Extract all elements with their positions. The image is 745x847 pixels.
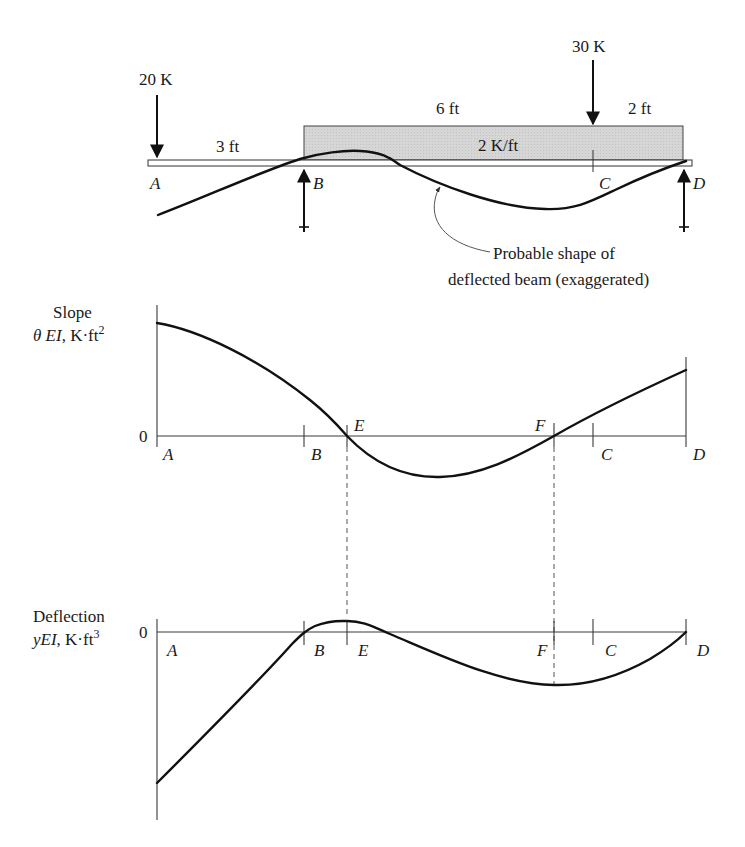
point-label-C: C	[599, 174, 611, 193]
deflection-label-A: A	[166, 641, 178, 660]
point-load-label-C: 30 K	[572, 37, 606, 56]
slope-label-E: E	[353, 416, 365, 435]
slope-ylabel-units: θ EI, K·ft2	[33, 323, 104, 345]
point-label-A: A	[149, 174, 161, 193]
deflection-ylabel-title: Deflection	[33, 607, 105, 626]
annotation-text-line2: deflected beam (exaggerated)	[448, 270, 649, 289]
deflection-label-F: F	[536, 641, 548, 660]
deflection-label-D: D	[696, 641, 710, 660]
slope-label-A: A	[162, 445, 174, 464]
beam-diagram-figure: 20 K 30 K 3 ft 6 ft 2 ft 2 K/ft A B C D …	[0, 0, 745, 847]
slope-ylabel-title: Slope	[53, 303, 92, 322]
deflection-label-E: E	[357, 641, 369, 660]
distributed-load-label: 2 K/ft	[478, 136, 518, 155]
dimension-BC: 6 ft	[436, 99, 459, 118]
deflection-label-C: C	[605, 641, 617, 660]
beam-section: 20 K 30 K 3 ft 6 ft 2 ft 2 K/ft A B C D …	[139, 37, 706, 289]
slope-label-B: B	[311, 445, 322, 464]
point-load-label-A: 20 K	[139, 70, 173, 89]
deflection-ylabel-units: yEI, K·ft3	[31, 627, 99, 649]
slope-graph: Slope θ EI, K·ft2 0 A B E F C D	[33, 303, 706, 477]
dimension-AB: 3 ft	[216, 137, 239, 156]
slope-label-F: F	[534, 416, 546, 435]
deflection-zero-label: 0	[139, 623, 148, 642]
annotation-text-line1: Probable shape of	[493, 244, 615, 263]
slope-label-D: D	[692, 445, 706, 464]
point-label-B: B	[313, 174, 324, 193]
slope-label-C: C	[601, 445, 613, 464]
point-label-D: D	[692, 174, 706, 193]
deflection-label-B: B	[314, 641, 325, 660]
slope-zero-label: 0	[139, 427, 148, 446]
deflection-graph: Deflection yEI, K·ft3 0 A B E F C D	[31, 607, 710, 820]
beam	[148, 160, 692, 166]
dimension-CD: 2 ft	[628, 99, 651, 118]
